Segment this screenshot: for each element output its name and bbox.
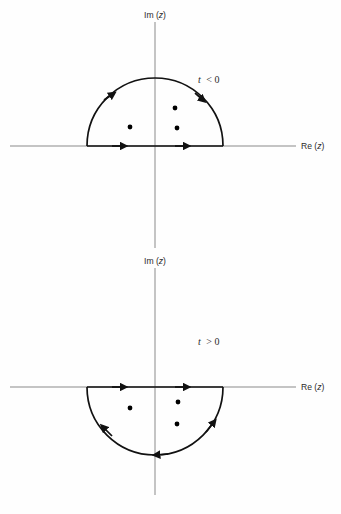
figure-root: Im (z) Re (z) t < 0 (0, 0, 341, 514)
pole-upper-right-upper (173, 106, 178, 111)
condition-relation-upper: < (204, 74, 215, 85)
arrow-arc-left-upper (104, 94, 113, 100)
im-axis-label-prefix-lower: Im ( (144, 256, 159, 266)
re-axis-label-suffix-upper: ) (322, 141, 325, 151)
pole-upper-right-lower (176, 400, 181, 405)
condition-variable-lower: t (198, 336, 201, 347)
re-axis-label-prefix-upper: Re ( (301, 141, 317, 151)
pole-lower-right-lower (175, 422, 180, 427)
condition-label-lower: t > 0 (198, 336, 219, 347)
condition-variable-upper: t (198, 74, 201, 85)
condition-relation-lower: > (204, 336, 215, 347)
pole-lower-right-upper (175, 126, 180, 131)
upper-panel: Im (z) Re (z) t < 0 (10, 10, 325, 248)
contour-diagram-svg: Im (z) Re (z) t < 0 (0, 0, 341, 514)
im-axis-label-suffix-upper: ) (163, 10, 166, 20)
im-axis-label-upper: Im (z) (144, 10, 166, 20)
condition-label-upper: t < 0 (198, 74, 219, 85)
im-axis-label-lower: Im (z) (144, 256, 166, 266)
condition-value-upper: 0 (214, 74, 219, 85)
im-axis-label-prefix-upper: Im ( (144, 10, 159, 20)
condition-value-lower: 0 (214, 336, 219, 347)
im-axis-label-suffix-lower: ) (163, 256, 166, 266)
re-axis-label-upper: Re (z) (301, 141, 325, 151)
pole-left-lower (128, 406, 133, 411)
lower-panel: Im (z) Re (z) t > 0 (10, 256, 325, 495)
arrow-arc-bottom-lower (156, 454, 168, 455)
pole-left-upper (128, 125, 133, 130)
re-axis-label-suffix-lower: ) (322, 382, 325, 392)
re-axis-label-prefix-lower: Re ( (301, 382, 317, 392)
re-axis-label-lower: Re (z) (301, 382, 325, 392)
arrow-arc-right-lower (206, 422, 214, 432)
